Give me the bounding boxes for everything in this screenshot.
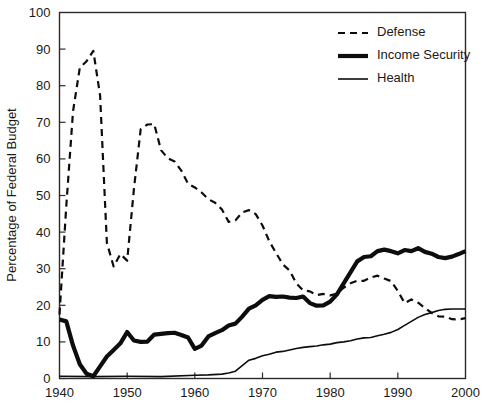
y-tick-label: 90 bbox=[36, 42, 50, 57]
series-line-defense bbox=[60, 51, 466, 320]
y-tick-label: 40 bbox=[36, 225, 50, 240]
y-tick-label: 50 bbox=[36, 188, 50, 203]
legend: DefenseIncome SecurityHealth bbox=[338, 24, 471, 85]
x-tick-label: 1980 bbox=[316, 385, 345, 400]
legend-label-health: Health bbox=[377, 70, 415, 85]
y-tick-label: 70 bbox=[36, 115, 50, 130]
chart-container: 0102030405060708090100 19401950196019701… bbox=[0, 0, 488, 408]
y-tick-label: 10 bbox=[36, 334, 50, 349]
y-tick-label: 60 bbox=[36, 151, 50, 166]
x-tick-label: 1960 bbox=[180, 385, 209, 400]
series-line-income-security bbox=[60, 248, 466, 376]
x-tick-label: 1990 bbox=[383, 385, 412, 400]
federal-budget-line-chart: 0102030405060708090100 19401950196019701… bbox=[0, 0, 488, 408]
x-tick-label: 1940 bbox=[45, 385, 74, 400]
x-tick-label: 1970 bbox=[248, 385, 277, 400]
y-axis-title: Percentage of Federal Budget bbox=[4, 108, 19, 282]
y-tick-label: 100 bbox=[29, 5, 51, 20]
legend-label-income-security: Income Security bbox=[377, 47, 471, 62]
legend-label-defense: Defense bbox=[377, 24, 425, 39]
y-tick-label: 20 bbox=[36, 298, 50, 313]
series-layer bbox=[60, 51, 466, 377]
y-tick-label: 30 bbox=[36, 261, 50, 276]
x-tick-label: 2000 bbox=[451, 385, 480, 400]
plot-frame bbox=[60, 13, 466, 379]
y-tick-label: 80 bbox=[36, 78, 50, 93]
x-tick-label: 1950 bbox=[113, 385, 142, 400]
